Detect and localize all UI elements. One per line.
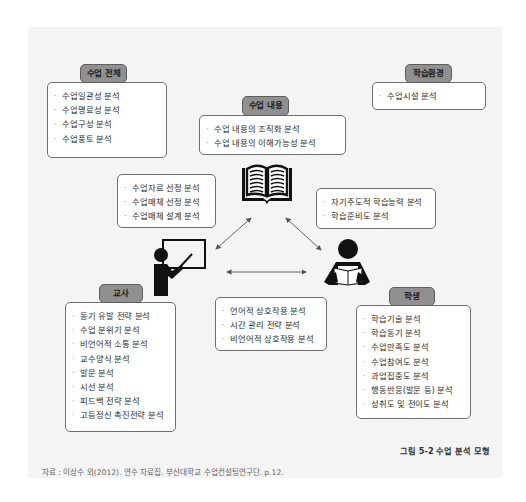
student-content-arrow (286, 218, 321, 250)
connector-arrows (0, 0, 526, 502)
figure-source: 자료 : 이상수 외(2012). 연수 자료집. 부산대학교 수업컨설팅연구단… (42, 466, 284, 477)
teacher-content-arrow (216, 218, 251, 249)
figure-caption: 그림 5-2 수업 분석 모형 (400, 444, 490, 456)
